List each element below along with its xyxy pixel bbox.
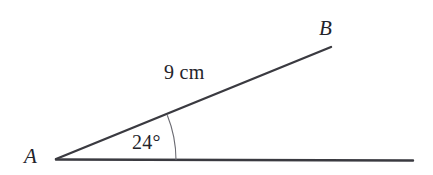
point-label-b: B	[319, 18, 332, 39]
angle-diagram: A B 9 cm 24°	[0, 0, 433, 175]
ray-base-horizontal	[56, 160, 413, 161]
diagram-canvas	[0, 0, 433, 175]
diagram-background	[0, 0, 433, 175]
side-length-label: 9 cm	[164, 62, 205, 82]
vertex-label-a: A	[24, 146, 37, 167]
angle-measure-label: 24°	[132, 132, 161, 152]
